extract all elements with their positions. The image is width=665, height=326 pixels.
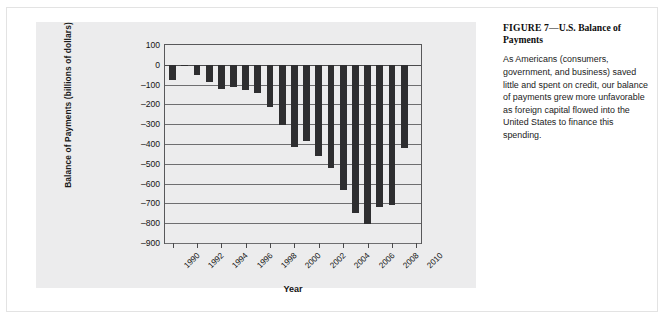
y-tick-label: –100 xyxy=(141,80,160,90)
x-tick-mark xyxy=(343,243,344,248)
y-tick-label: –700 xyxy=(141,198,160,208)
x-tick-label: 2010 xyxy=(426,251,445,270)
figure-root: Balance of Payments (billions of dollars… xyxy=(0,0,665,326)
y-tick-label: –800 xyxy=(141,218,160,228)
caption-body-text: As Americans (consumers, government, and… xyxy=(503,53,653,141)
figure-caption: FIGURE 7—U.S. Balance of Payments As Ame… xyxy=(503,22,653,142)
x-tick-label: 1992 xyxy=(206,251,225,270)
x-tick-mark xyxy=(294,243,295,248)
bar-1999 xyxy=(279,65,286,125)
bar-1997 xyxy=(254,65,261,93)
x-tick-mark xyxy=(197,243,198,248)
bar-2005 xyxy=(352,65,359,213)
x-tick-label: 1994 xyxy=(231,251,250,270)
y-tick-label: 0 xyxy=(155,60,160,70)
x-tick-label: 1996 xyxy=(255,251,274,270)
bar-2001 xyxy=(303,65,310,141)
bar-1996 xyxy=(242,65,249,90)
bar-1991 xyxy=(181,65,188,66)
bar-2006 xyxy=(364,65,371,224)
bar-2008 xyxy=(389,65,396,205)
bar-1994 xyxy=(218,65,225,89)
bar-1993 xyxy=(206,65,213,82)
y-tick-label: –400 xyxy=(141,139,160,149)
x-tick-label: 2004 xyxy=(353,251,372,270)
x-tick-mark xyxy=(270,243,271,248)
bar-2009 xyxy=(401,65,408,148)
bar-series xyxy=(165,45,421,243)
x-tick-mark xyxy=(246,243,247,248)
y-tick-label: –900 xyxy=(141,238,160,248)
x-axis-title: Year xyxy=(164,284,422,294)
y-tick-label: –200 xyxy=(141,99,160,109)
x-tick-mark xyxy=(416,243,417,248)
x-tick-label: 1990 xyxy=(182,251,201,270)
bar-1995 xyxy=(230,65,237,88)
bar-2007 xyxy=(376,65,383,207)
x-tick-mark xyxy=(173,243,174,248)
bar-1998 xyxy=(267,65,274,108)
bar-1990 xyxy=(169,65,176,81)
x-tick-mark xyxy=(319,243,320,248)
x-tick-label: 2002 xyxy=(328,251,347,270)
x-tick-mark xyxy=(392,243,393,248)
y-tick-label: –600 xyxy=(141,179,160,189)
x-tick-mark xyxy=(368,243,369,248)
bar-2003 xyxy=(328,65,335,168)
caption-figure-number: FIGURE 7 xyxy=(503,22,549,33)
x-tick-label: 2000 xyxy=(304,251,323,270)
y-axis-title: Balance of Payments (billions of dollars… xyxy=(63,15,73,195)
y-tick-label: 100 xyxy=(146,40,160,50)
caption-title: FIGURE 7—U.S. Balance of Payments xyxy=(503,22,653,46)
plot-area: 1000–100–200–300–400–500–600–700–800–900… xyxy=(164,44,422,244)
x-tick-label: 1998 xyxy=(279,251,298,270)
gridline--900 xyxy=(165,243,421,244)
bar-2004 xyxy=(340,65,347,190)
x-tick-mark xyxy=(221,243,222,248)
y-tick-label: –300 xyxy=(141,119,160,129)
y-tick-label: –500 xyxy=(141,159,160,169)
x-tick-label: 2006 xyxy=(377,251,396,270)
bar-2002 xyxy=(315,65,322,156)
chart-panel: Balance of Payments (billions of dollars… xyxy=(36,22,476,288)
x-tick-label: 2008 xyxy=(401,251,420,270)
bar-2000 xyxy=(291,65,298,148)
bar-1992 xyxy=(194,65,201,75)
